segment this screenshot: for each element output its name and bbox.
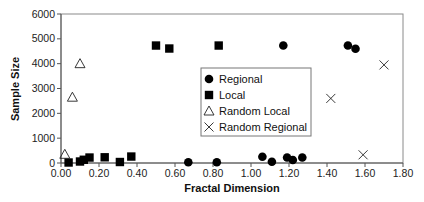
data-point-square-filled [215, 41, 223, 49]
data-point-square-filled [64, 158, 72, 166]
y-tick-label: 2000 [32, 107, 56, 119]
data-point-circle-filled [213, 158, 222, 167]
x-tick-label: 0.20 [89, 167, 110, 179]
y-tick-label: 5000 [32, 32, 56, 44]
data-point-square-filled [85, 153, 93, 161]
data-point-circle-filled [344, 41, 353, 50]
data-point-circle-filled [298, 153, 307, 162]
x-axis: 0.000.200.400.600.801.001.201.401.601.80 [51, 163, 414, 179]
square-filled-icon [205, 91, 213, 99]
x-tick-label: 1.60 [355, 167, 376, 179]
legend-label: Random Local [219, 105, 290, 117]
x-tick-label: 0.80 [203, 167, 224, 179]
y-tick-label: 4000 [32, 57, 56, 69]
circle-filled-icon [205, 75, 214, 84]
y-tick-label: 3000 [32, 82, 56, 94]
data-point-circle-filled [289, 156, 298, 165]
x-tick-label: 0.40 [127, 167, 148, 179]
legend-label: Random Regional [219, 121, 307, 133]
x-tick-label: 1.80 [393, 167, 414, 179]
x-tick-label: 1.00 [241, 167, 262, 179]
data-point-circle-filled [258, 152, 267, 161]
data-point-square-filled [165, 44, 173, 52]
data-point-circle-filled [268, 157, 277, 166]
legend-label: Regional [219, 73, 262, 85]
data-point-circle-filled [184, 158, 193, 167]
y-axis-title: Sample Size [9, 57, 21, 121]
x-tick-label: 1.20 [279, 167, 300, 179]
x-tick-label: 0.60 [165, 167, 186, 179]
y-axis: 0100020003000400050006000 [32, 8, 61, 169]
data-point-square-filled [116, 158, 124, 166]
data-point-circle-filled [351, 44, 360, 53]
y-tick-label: 1000 [32, 132, 56, 144]
x-axis-title: Fractal Dimension [184, 182, 280, 194]
data-point-square-filled [101, 153, 109, 161]
data-point-circle-filled [279, 41, 288, 50]
data-point-square-filled [127, 152, 135, 160]
y-tick-label: 6000 [32, 8, 56, 20]
scatter-chart: 0100020003000400050006000 0.000.200.400.… [0, 0, 424, 202]
x-tick-label: 1.40 [317, 167, 338, 179]
x-tick-label: 0.00 [51, 167, 72, 179]
legend-label: Local [219, 89, 245, 101]
legend: RegionalLocalRandom LocalRandom Regional [201, 68, 311, 136]
data-point-square-filled [152, 41, 160, 49]
